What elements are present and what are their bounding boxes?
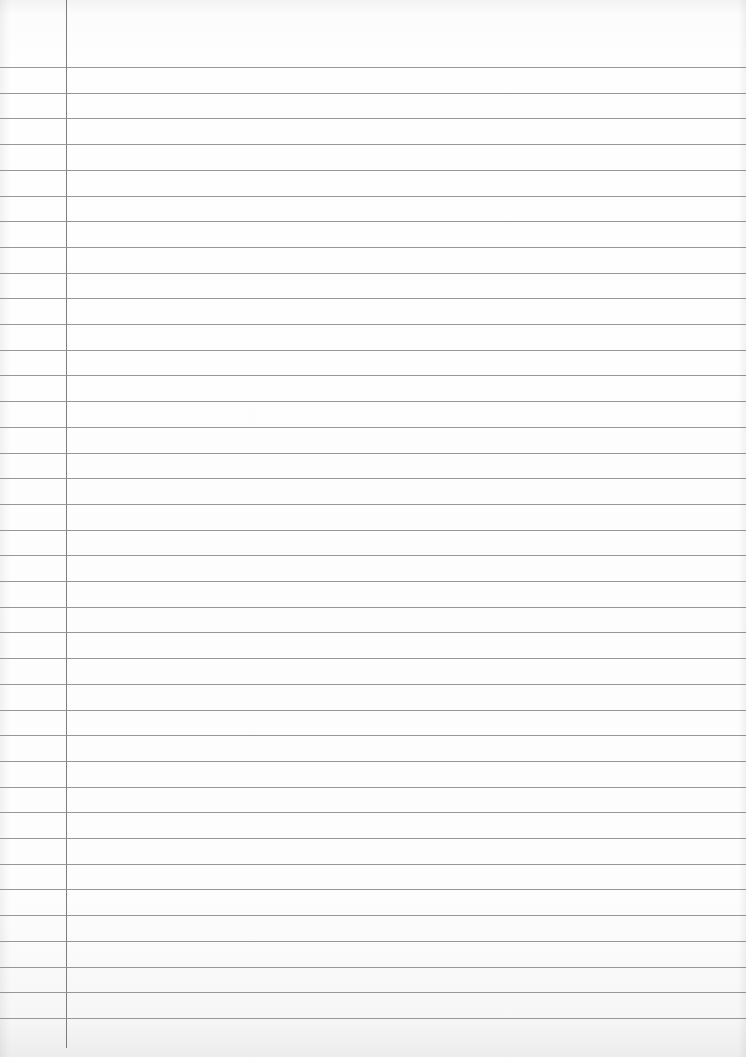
ruled-line	[0, 735, 746, 736]
ruled-line	[0, 967, 746, 968]
ruled-line	[0, 427, 746, 428]
ruled-line	[0, 915, 746, 916]
ruled-line	[0, 530, 746, 531]
ruled-line	[0, 375, 746, 376]
ruled-line	[0, 196, 746, 197]
ruled-line	[0, 170, 746, 171]
ruled-line	[0, 864, 746, 865]
ruled-line	[0, 1018, 746, 1019]
ruled-line	[0, 555, 746, 556]
ruled-line	[0, 453, 746, 454]
paper-shadow	[0, 1017, 746, 1057]
ruled-line	[0, 298, 746, 299]
ruled-line	[0, 710, 746, 711]
ruled-line	[0, 787, 746, 788]
ruled-line	[0, 478, 746, 479]
ruled-line	[0, 401, 746, 402]
ruled-line	[0, 838, 746, 839]
ruled-line	[0, 889, 746, 890]
ruled-line	[0, 658, 746, 659]
lined-paper-sheet	[0, 0, 746, 1057]
ruled-line	[0, 581, 746, 582]
ruled-line	[0, 684, 746, 685]
ruled-line	[0, 67, 746, 68]
ruled-line	[0, 607, 746, 608]
ruled-line	[0, 247, 746, 248]
ruled-line	[0, 144, 746, 145]
ruled-line	[0, 350, 746, 351]
ruled-line	[0, 324, 746, 325]
ruled-line	[0, 273, 746, 274]
ruled-line	[0, 118, 746, 119]
ruled-line	[0, 761, 746, 762]
left-margin-line	[66, 0, 67, 1048]
ruled-line	[0, 221, 746, 222]
ruled-line	[0, 992, 746, 993]
ruled-line	[0, 632, 746, 633]
ruled-line	[0, 812, 746, 813]
ruled-line	[0, 504, 746, 505]
ruled-line	[0, 93, 746, 94]
ruled-line	[0, 941, 746, 942]
